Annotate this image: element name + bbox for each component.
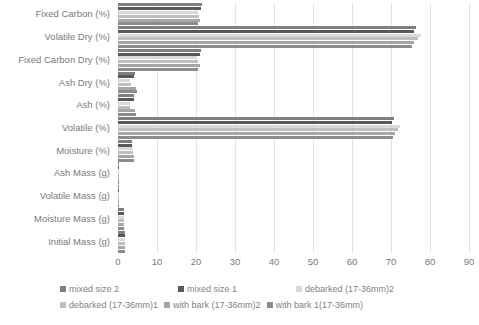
bar — [118, 216, 124, 219]
bar — [118, 250, 125, 253]
bar — [118, 11, 198, 14]
legend-item[interactable]: debarked (17-36mm)2 — [296, 283, 394, 295]
bar — [118, 212, 124, 215]
x-axis-tick-label: 40 — [269, 256, 280, 267]
y-axis-tick-label: Ash Dry (%) — [59, 77, 110, 88]
x-axis-tick-label: 70 — [386, 256, 397, 267]
bar — [118, 3, 202, 6]
legend-row-1: mixed size 2mixed size 1debarked (17-36m… — [60, 283, 460, 299]
bar — [118, 87, 136, 90]
y-axis-labels: Fixed Carbon (%)Volatile Dry (%)Fixed Ca… — [0, 3, 114, 253]
bar-group — [118, 26, 469, 49]
bar — [118, 144, 132, 147]
legend-swatch-icon — [178, 286, 184, 292]
y-axis-tick-label: Fixed Carbon (%) — [36, 8, 110, 19]
bar — [118, 132, 395, 135]
bar — [118, 128, 398, 131]
bar-group — [118, 208, 469, 231]
legend-row-2: debarked (17-36mm)1with bark (17-36mm)2w… — [60, 299, 460, 315]
bar — [118, 121, 392, 124]
y-axis-tick-label: Volatile (%) — [62, 122, 110, 133]
bar — [118, 49, 201, 52]
chart-page: Fixed Carbon (%)Volatile Dry (%)Fixed Ca… — [0, 0, 479, 325]
bar — [118, 197, 119, 200]
bar — [118, 56, 196, 59]
x-axis-tick-label: 0 — [115, 256, 120, 267]
legend-swatch-icon — [164, 302, 170, 308]
bar — [118, 53, 200, 56]
legend-item[interactable]: with bark 1(17-36mm) — [267, 299, 364, 311]
bar — [118, 200, 119, 203]
bar — [118, 37, 418, 40]
bar-group — [118, 3, 469, 26]
y-axis-tick-label: Volatile Mass (g) — [40, 190, 110, 201]
legend-item[interactable]: debarked (17-36mm)1 — [60, 299, 158, 311]
y-axis-tick-label: Moisture Mass (g) — [34, 213, 110, 224]
y-axis-tick-label: Volatile Dry (%) — [45, 31, 110, 42]
bar — [118, 30, 414, 33]
x-axis-tick-label: 10 — [152, 256, 163, 267]
legend-swatch-icon — [296, 286, 302, 292]
bar — [118, 189, 119, 192]
legend-item-label: debarked (17-36mm)1 — [69, 299, 158, 311]
bar-group — [118, 117, 469, 140]
bar — [118, 109, 135, 112]
bar — [118, 231, 125, 234]
x-axis-tick-label: 50 — [308, 256, 319, 267]
x-axis-tick-label: 80 — [425, 256, 436, 267]
bar — [118, 15, 199, 18]
bar — [118, 34, 421, 37]
legend-swatch-icon — [60, 286, 66, 292]
bar — [118, 64, 200, 67]
bar — [118, 72, 135, 75]
bar — [118, 185, 119, 188]
bar-group — [118, 139, 469, 162]
y-axis-tick-label: Initial Mass (g) — [48, 236, 110, 247]
bar — [118, 170, 119, 173]
bar — [118, 219, 124, 222]
x-axis-tick-label: 90 — [464, 256, 475, 267]
bar-group — [118, 48, 469, 71]
bar — [118, 7, 201, 10]
legend-swatch-icon — [60, 302, 66, 308]
chart-legend: mixed size 2mixed size 1debarked (17-36m… — [60, 283, 460, 315]
legend-item-label: with bark 1(17-36mm) — [276, 299, 364, 311]
x-axis-tick-label: 60 — [347, 256, 358, 267]
legend-item-label: with bark (17-36mm)2 — [173, 299, 261, 311]
bar-group — [118, 230, 469, 253]
y-axis-tick-label: Fixed Carbon Dry (%) — [18, 54, 110, 65]
legend-item[interactable]: mixed size 1 — [178, 283, 296, 295]
bar — [118, 102, 130, 105]
y-axis-tick-label: Ash (%) — [76, 99, 110, 110]
bar — [118, 147, 133, 150]
bar — [118, 166, 119, 169]
bar-group — [118, 94, 469, 117]
gridline — [469, 3, 470, 253]
bar — [118, 155, 134, 158]
bar — [118, 174, 119, 177]
bar — [118, 238, 125, 241]
bar — [118, 208, 124, 211]
legend-item-label: mixed size 2 — [69, 283, 119, 295]
legend-item-label: mixed size 1 — [187, 283, 237, 295]
bar — [118, 19, 200, 22]
legend-item[interactable]: with bark (17-36mm)2 — [164, 299, 261, 311]
bar-group — [118, 162, 469, 185]
bar — [118, 242, 125, 245]
bar — [118, 94, 134, 97]
bar-group — [118, 185, 469, 208]
bar — [118, 151, 133, 154]
bar — [118, 125, 400, 128]
bar — [118, 75, 134, 78]
y-axis-tick-label: Moisture (%) — [56, 145, 110, 156]
y-axis-tick-label: Ash Mass (g) — [54, 167, 110, 178]
bar — [118, 117, 394, 120]
bar — [118, 79, 130, 82]
legend-item-label: debarked (17-36mm)2 — [305, 283, 394, 295]
legend-item[interactable]: mixed size 2 — [60, 283, 178, 295]
bar — [118, 140, 132, 143]
x-axis-tick-label: 20 — [191, 256, 202, 267]
x-axis-labels: 0102030405060708090 — [118, 256, 469, 272]
bar — [118, 106, 130, 109]
bar — [118, 26, 416, 29]
